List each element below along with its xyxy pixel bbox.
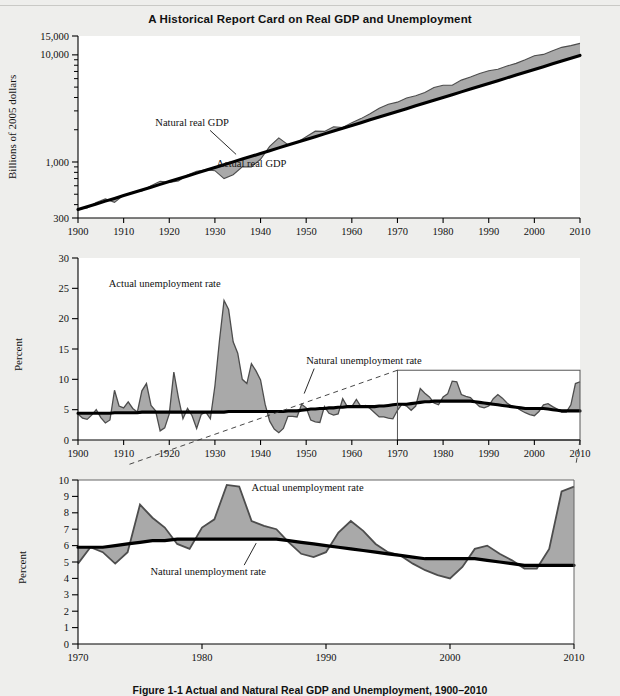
unemp-long-y-tick-label: 5 <box>64 404 69 415</box>
unemp-recent-y-tick-label: 2 <box>64 606 69 617</box>
unemp-long-x-tick-label: 2010 <box>570 448 591 459</box>
unemp-recent-x-tick-label: 2000 <box>440 652 461 663</box>
unemp-recent-y-tick-label: 4 <box>64 573 70 584</box>
figure-title: A Historical Report Card on Real GDP and… <box>0 13 620 25</box>
unemp-long-y-tick-label: 25 <box>59 283 70 294</box>
unemp-recent-y-tick-label: 5 <box>64 557 69 568</box>
unemp-long-x-tick-label: 1960 <box>341 448 362 459</box>
gdp-y-axis-title: Billions of 2005 dollars <box>6 75 18 179</box>
gdp-y-tick-label: 10,000 <box>40 49 69 60</box>
gdp-x-tick-label: 2010 <box>570 226 591 237</box>
gdp-x-tick-label: 1960 <box>341 226 362 237</box>
unemp-long-x-tick-label: 1990 <box>478 448 499 459</box>
unemp-long-y-tick-label: 10 <box>59 374 70 385</box>
unemp-long-y-tick-label: 0 <box>64 435 69 446</box>
panel-real-gdp: 15,00010,0001,00030019001910192019301940… <box>0 28 620 243</box>
unemp-recent-y-tick-label: 1 <box>64 622 69 633</box>
unemp-recent-y-tick-label: 10 <box>59 475 70 486</box>
panel-unemployment-long: 0510152025301900191019201930194019501960… <box>0 250 620 465</box>
unemp-recent-y-tick-label: 6 <box>64 540 69 551</box>
unemp-long-x-tick-label: 1980 <box>433 448 454 459</box>
unemp-long-x-tick-label: 2000 <box>524 448 545 459</box>
gdp-x-tick-label: 1930 <box>204 226 225 237</box>
gdp-y-tick-label: 1,000 <box>45 157 69 168</box>
gdp-x-tick-label: 2000 <box>524 226 545 237</box>
unemp-long-y-axis-title: Percent <box>12 338 24 371</box>
unemp-long-y-tick-label: 20 <box>59 313 70 324</box>
unemp-long-x-tick-label: 1910 <box>113 448 134 459</box>
gdp-annotation-natural: Natural real GDP <box>155 117 229 128</box>
unemp-recent-y-axis-title: Percent <box>16 551 28 584</box>
real-gdp-chart: 15,00010,0001,00030019001910192019301940… <box>0 28 620 243</box>
gdp-x-tick-label: 1900 <box>68 226 89 237</box>
unemp-long-y-tick-label: 15 <box>59 344 70 355</box>
unemp-long-x-tick-label: 1920 <box>159 448 180 459</box>
gdp-x-tick-label: 1990 <box>478 226 499 237</box>
unemp-recent-annotation-actual: Actual unemployment rate <box>252 482 364 493</box>
unemp-long-x-tick-label: 1970 <box>387 448 408 459</box>
gdp-x-tick-label: 1980 <box>433 226 454 237</box>
unemp-recent-y-tick-label: 8 <box>64 507 69 518</box>
unemp-recent-x-tick-label: 1980 <box>192 652 213 663</box>
gdp-x-tick-label: 1950 <box>296 226 317 237</box>
unemp-recent-y-tick-label: 7 <box>64 524 69 535</box>
figure-caption: Figure 1-1 Actual and Natural Real GDP a… <box>0 684 620 696</box>
unemp-recent-y-tick-label: 0 <box>64 639 69 650</box>
unemp-recent-y-tick-label: 9 <box>64 491 69 502</box>
gdp-y-tick-label: 300 <box>53 213 69 224</box>
unemp-long-y-tick-label: 30 <box>59 253 70 264</box>
unemployment-recent-chart: 01234567891019701980199020002010PercentA… <box>0 462 620 684</box>
gdp-y-tick-label: 15,000 <box>40 31 69 42</box>
unemp-long-x-tick-label: 1900 <box>68 448 89 459</box>
unemp-long-x-tick-label: 1930 <box>204 448 225 459</box>
gdp-x-tick-label: 1940 <box>250 226 271 237</box>
unemp-recent-x-tick-label: 1990 <box>316 652 337 663</box>
unemp-long-annotation-actual: Actual unemployment rate <box>109 278 221 289</box>
gdp-plot-area <box>78 36 580 218</box>
unemp-recent-annotation-natural: Natural unemployment rate <box>150 566 266 577</box>
gdp-x-tick-label: 1910 <box>113 226 134 237</box>
unemp-recent-x-tick-label: 2010 <box>564 652 585 663</box>
unemp-long-annotation-natural: Natural unemployment rate <box>306 355 422 366</box>
unemp-recent-x-tick-label: 1970 <box>68 652 89 663</box>
gdp-x-tick-label: 1920 <box>159 226 180 237</box>
unemp-long-x-tick-label: 1950 <box>296 448 317 459</box>
gdp-annotation-actual: Actual real GDP <box>216 158 286 169</box>
panel-unemployment-recent: 01234567891019701980199020002010PercentA… <box>0 462 620 684</box>
unemp-recent-y-tick-label: 3 <box>64 589 69 600</box>
gdp-x-tick-label: 1970 <box>387 226 408 237</box>
unemp-long-x-tick-label: 1940 <box>250 448 271 459</box>
unemployment-long-chart: 0510152025301900191019201930194019501960… <box>0 250 620 465</box>
page-top-rule <box>0 5 620 6</box>
